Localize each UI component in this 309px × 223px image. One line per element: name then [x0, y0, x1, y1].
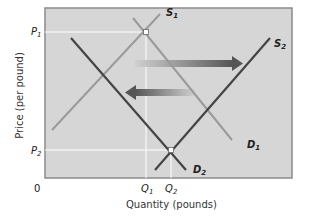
label-s2: S2	[274, 38, 286, 51]
equilibrium-point-2	[169, 148, 174, 153]
y-axis-label: Price (per pound)	[14, 52, 25, 139]
label-d2: D2	[193, 164, 206, 177]
label-s1: S1	[166, 7, 178, 20]
tick-p1: P1	[31, 26, 42, 39]
tick-q2: Q2	[165, 183, 177, 196]
equilibrium-point-1	[144, 30, 149, 35]
origin-label: 0	[34, 183, 40, 194]
label-d1: D1	[247, 139, 260, 152]
chart-canvas	[0, 0, 309, 223]
tick-q1: Q1	[141, 183, 153, 196]
tick-p2: P2	[31, 145, 42, 158]
x-axis-label: Quantity (pounds)	[126, 199, 217, 210]
